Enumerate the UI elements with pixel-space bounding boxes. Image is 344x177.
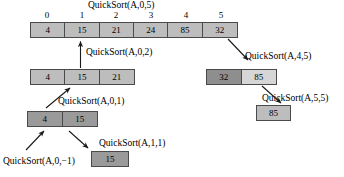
arrow-0-2-to-0-1 — [46, 88, 70, 108]
arrow-root-to-4-5 — [228, 39, 248, 60]
arrow-layer — [0, 0, 344, 177]
quicksort-diagram: 0 1 2 3 4 5 4 15 21 24 85 32 4 15 21 32 … — [0, 0, 344, 177]
arrow-4-5-to-5-5 — [262, 86, 281, 103]
arrow-0-1-to-1-1 — [69, 131, 88, 148]
arrow-0-1-to-0-minus-1 — [26, 131, 44, 150]
